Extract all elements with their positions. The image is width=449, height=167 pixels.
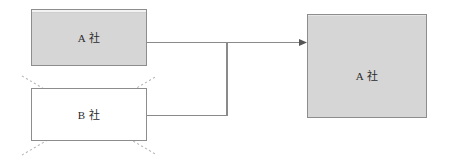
diagram-canvas: A 社 B 社 A 社 [0, 0, 449, 167]
node-company-a-source-label: A 社 [78, 33, 101, 44]
node-company-a-surviving[interactable]: A 社 [307, 14, 427, 118]
node-company-a-surviving-label: A 社 [356, 71, 379, 82]
node-company-b-dissolved[interactable]: B 社 [31, 88, 147, 141]
node-company-a-source[interactable]: A 社 [31, 9, 147, 66]
node-company-b-dissolved-label: B 社 [78, 110, 101, 121]
arrow-head-icon [299, 39, 307, 46]
